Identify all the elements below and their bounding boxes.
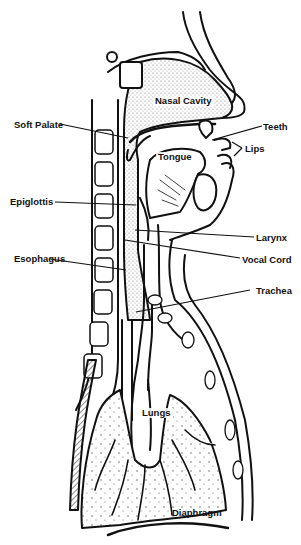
label-vocal-cord: Vocal Cord (242, 255, 291, 265)
teeth-leader (212, 126, 262, 140)
lips (214, 138, 230, 150)
label-teeth: Teeth (263, 122, 288, 132)
label-lungs: Lungs (140, 408, 173, 418)
vertebra (95, 194, 113, 218)
vertebra (95, 258, 113, 282)
label-larynx: Larynx (256, 233, 287, 243)
label-trachea: Trachea (256, 286, 292, 296)
label-epiglottis: Epiglottis (10, 197, 53, 207)
label-lips: Lips (245, 144, 265, 154)
label-esophagus: Esophagus (14, 254, 65, 264)
lips-leader-upper (232, 142, 242, 148)
vertebra (94, 290, 112, 314)
vertebra (90, 322, 108, 346)
label-soft-palate: Soft Palate (14, 120, 63, 130)
vertebra (95, 162, 113, 186)
label-tongue: Tongue (156, 152, 194, 162)
anatomy-drawing (0, 0, 301, 545)
vertebra (95, 226, 113, 250)
anatomy-diagram: Nasal Cavity Soft Palate Teeth Lips Tong… (0, 0, 301, 545)
vocal-cord-leader (125, 240, 240, 258)
label-nasal-cavity: Nasal Cavity (153, 96, 214, 106)
lips-leader-lower (234, 148, 242, 156)
label-diaphragm: Diaphragm (172, 508, 222, 518)
